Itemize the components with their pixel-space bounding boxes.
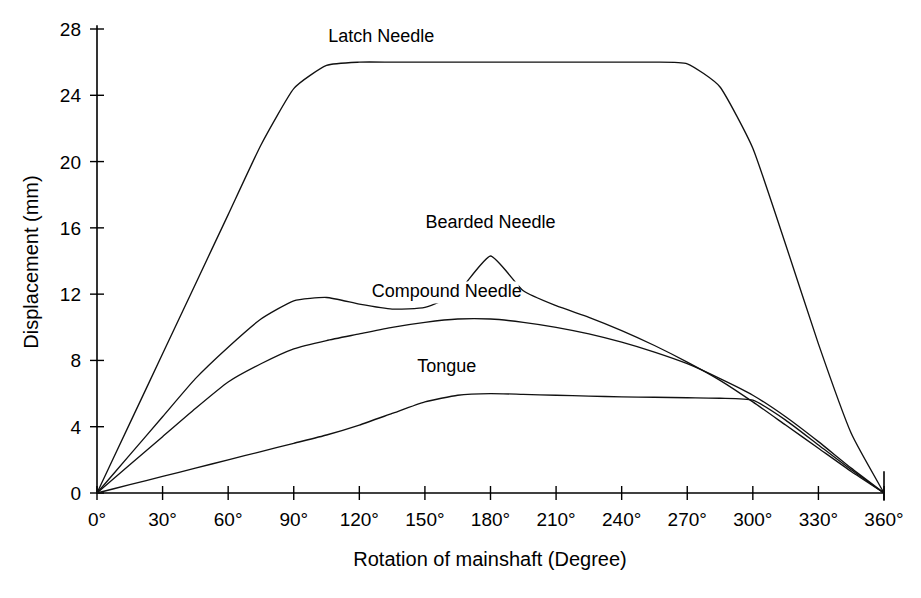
x-tick-label: 180° bbox=[471, 509, 510, 530]
series-curves bbox=[97, 62, 884, 493]
y-tick-label: 4 bbox=[70, 417, 81, 438]
y-axis-title: Displacement (mm) bbox=[20, 175, 42, 348]
x-tick-label: 240° bbox=[602, 509, 641, 530]
y-tick-label: 24 bbox=[60, 85, 82, 106]
chart-container: 0481216202428 0°30°60°90°120°150°180°210… bbox=[0, 0, 921, 598]
x-tick-label: 300° bbox=[733, 509, 772, 530]
x-tick-label: 30° bbox=[148, 509, 177, 530]
y-tick-label: 28 bbox=[60, 19, 81, 40]
y-tick-label: 0 bbox=[70, 483, 81, 504]
y-tick-label: 8 bbox=[70, 350, 81, 371]
series-label-compound-needle: Compound Needle bbox=[372, 281, 522, 301]
curve-tongue bbox=[97, 394, 884, 493]
series-label-latch-needle: Latch Needle bbox=[328, 26, 434, 46]
series-label-bearded-needle: Bearded Needle bbox=[425, 212, 555, 232]
y-axis-tick-labels: 0481216202428 bbox=[60, 19, 82, 504]
y-tick-label: 12 bbox=[60, 284, 81, 305]
series-inline-labels: Latch NeedleBearded NeedleCompound Needl… bbox=[323, 26, 558, 378]
curve-latch-needle bbox=[97, 62, 884, 493]
x-tick-label: 60° bbox=[214, 509, 243, 530]
curve-compound-needle bbox=[97, 319, 884, 493]
y-tick-label: 16 bbox=[60, 218, 81, 239]
x-tick-label: 90° bbox=[279, 509, 308, 530]
series-label-tongue: Tongue bbox=[417, 356, 476, 376]
x-tick-label: 360° bbox=[864, 509, 903, 530]
y-tick-label: 20 bbox=[60, 152, 81, 173]
x-tick-label: 150° bbox=[405, 509, 444, 530]
x-tick-label: 120° bbox=[340, 509, 379, 530]
x-axis-title: Rotation of mainshaft (Degree) bbox=[353, 548, 626, 570]
x-tick-label: 210° bbox=[536, 509, 575, 530]
x-axis-tick-labels: 0°30°60°90°120°150°180°210°240°270°300°3… bbox=[88, 509, 904, 530]
displacement-chart: 0481216202428 0°30°60°90°120°150°180°210… bbox=[0, 0, 921, 598]
x-tick-label: 0° bbox=[88, 509, 106, 530]
x-tick-label: 270° bbox=[668, 509, 707, 530]
x-tick-label: 330° bbox=[799, 509, 838, 530]
